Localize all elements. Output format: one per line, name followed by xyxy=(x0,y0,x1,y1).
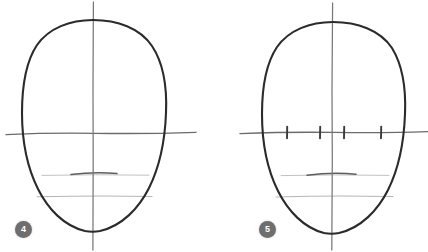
step-4-vertical-center-line xyxy=(93,2,94,250)
drawing-tutorial-page: 4 5 xyxy=(0,0,428,252)
step-5-lip-line xyxy=(276,196,393,197)
step-5-vertical-center-line xyxy=(332,3,333,250)
step-5-head-outline xyxy=(262,22,405,234)
step-4-eye-line xyxy=(6,132,196,134)
step-badge-4: 4 xyxy=(15,221,32,238)
step-4-nose-line xyxy=(42,175,149,176)
step-5-eye-line xyxy=(240,132,428,134)
step-badge-5: 5 xyxy=(259,221,276,238)
step-4-figure xyxy=(6,2,196,250)
step-5-nose-line xyxy=(281,175,389,176)
step-4-lip-line xyxy=(37,196,152,197)
head-construction-illustration xyxy=(0,0,428,252)
step-5-figure xyxy=(240,3,428,250)
step-4-head-outline xyxy=(22,20,166,232)
